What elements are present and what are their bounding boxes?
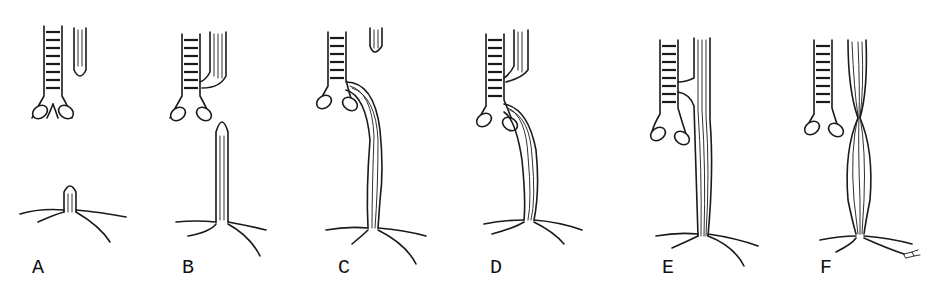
- esophagus-lower-pouch-icon: [216, 122, 228, 222]
- trachea-icon: [802, 40, 846, 140]
- panel-d-label: D: [490, 256, 502, 279]
- esophagus-upper-pouch-icon: [74, 28, 86, 76]
- esophagus-upper-fistula-icon: [504, 30, 528, 82]
- trachea-icon: [314, 32, 360, 114]
- panel-e-label: E: [662, 256, 674, 279]
- diaphragm-icon: [820, 236, 912, 254]
- panel-d: D: [470, 0, 628, 306]
- esophagus-upper-pouch-icon: [370, 28, 382, 52]
- trachea-icon: [30, 26, 76, 122]
- diaphragm-icon: [176, 221, 266, 256]
- panel-c-label: C: [338, 256, 350, 279]
- panel-c-drawing: [310, 0, 468, 306]
- panel-c: C: [310, 0, 468, 306]
- tube-end-icon: [904, 250, 920, 258]
- esophagus-lower-stub-icon: [64, 186, 76, 212]
- trachea-icon: [474, 34, 520, 134]
- panel-a: A: [0, 0, 158, 306]
- diaphragm-icon: [484, 220, 582, 244]
- panel-b: B: [160, 0, 318, 306]
- esophagus-upper-fistula-icon: [200, 32, 226, 88]
- panel-f: F: [800, 0, 947, 306]
- panel-a-drawing: [0, 0, 158, 306]
- trachea-icon: [168, 34, 214, 124]
- panel-a-label: A: [32, 256, 44, 279]
- esophagus-stenosis-icon: [847, 40, 871, 234]
- panel-f-label: F: [820, 256, 832, 279]
- diaphragm-icon: [20, 210, 126, 243]
- panel-b-label: B: [182, 256, 194, 279]
- panel-e: E: [640, 0, 798, 306]
- figure-diagram: A: [0, 0, 947, 306]
